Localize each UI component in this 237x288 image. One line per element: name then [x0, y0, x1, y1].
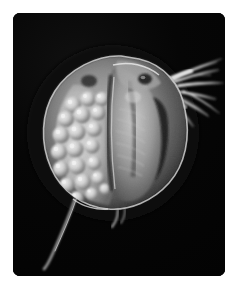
micrograph-panel: Daphnia water flea	[13, 13, 225, 276]
tail-spine	[44, 199, 75, 269]
daphnia-specimen	[13, 13, 225, 276]
figure-root: Daphnia water flea	[0, 0, 237, 288]
